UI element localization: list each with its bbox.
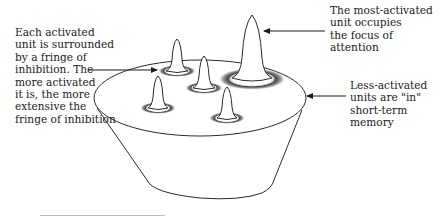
- label-focus-of-attention: The most-activated unit occupies the foc…: [330, 4, 446, 54]
- bucket-bottom: [147, 180, 274, 199]
- label-short-term-memory: Less-activated units are "in" short-term…: [350, 79, 446, 129]
- caption-rule: [40, 215, 165, 216]
- label-fringe-of-inhibition: Each activated unit is surrounded by a f…: [15, 26, 135, 125]
- activated-unit-back-left: [166, 39, 188, 73]
